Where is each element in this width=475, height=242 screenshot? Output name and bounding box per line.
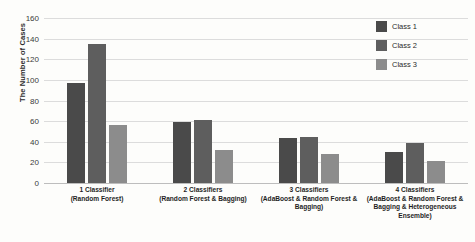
bar	[279, 138, 297, 183]
bar-group	[150, 18, 256, 183]
bar	[109, 125, 127, 183]
bar-group	[44, 18, 150, 183]
bar	[406, 143, 424, 183]
y-tick-label: 140	[26, 34, 39, 43]
legend-item: Class 2	[376, 40, 417, 51]
bar	[321, 154, 339, 183]
y-tick-label: 80	[30, 96, 39, 105]
bar	[88, 44, 106, 183]
category-name: 1 Classifier	[79, 186, 114, 193]
legend-swatch	[376, 59, 387, 70]
bar	[215, 150, 233, 183]
x-axis-category-label: 1 Classifier(Random Forest)	[44, 186, 150, 242]
y-tick-label: 120	[26, 55, 39, 64]
category-sublabel: (AdaBoost & Random Forest & Bagging)	[257, 195, 361, 212]
legend-label: Class 2	[392, 41, 417, 50]
bar-chart: The Number of Cases 16014012010080604020…	[0, 0, 475, 242]
bar	[427, 161, 445, 183]
bar	[385, 152, 403, 183]
category-name: 3 Classifiers	[290, 186, 329, 193]
legend-swatch	[376, 40, 387, 51]
legend-item: Class 3	[376, 59, 417, 70]
category-sublabel: (AdaBoost & Random Forest & Bagging & He…	[363, 195, 467, 221]
bar-group	[256, 18, 362, 183]
bar	[67, 83, 85, 183]
legend: Class 1Class 2Class 3	[376, 21, 417, 70]
bars	[256, 18, 362, 183]
y-tick-label: 60	[30, 117, 39, 126]
category-sublabel: (Random Forest & Bagging)	[151, 195, 255, 204]
bars	[150, 18, 256, 183]
legend-label: Class 3	[392, 60, 417, 69]
x-axis-category-label: 4 Classifiers(AdaBoost & Random Forest &…	[362, 186, 468, 242]
y-tick-label: 100	[26, 75, 39, 84]
y-tick-label: 160	[26, 14, 39, 23]
bar	[194, 120, 212, 183]
x-axis-category-label: 3 Classifiers(AdaBoost & Random Forest &…	[256, 186, 362, 242]
y-tick-label: 20	[30, 158, 39, 167]
y-tick-label: 0	[35, 179, 39, 188]
x-axis-line: 0	[44, 183, 468, 184]
bar	[173, 122, 191, 183]
category-name: 4 Classifiers	[396, 186, 435, 193]
x-axis-category-labels: 1 Classifier(Random Forest)2 Classifiers…	[44, 186, 468, 242]
legend-label: Class 1	[392, 22, 417, 31]
legend-item: Class 1	[376, 21, 417, 32]
y-tick-label: 40	[30, 137, 39, 146]
category-name: 2 Classifiers	[184, 186, 223, 193]
x-axis-category-label: 2 Classifiers(Random Forest & Bagging)	[150, 186, 256, 242]
legend-swatch	[376, 21, 387, 32]
category-sublabel: (Random Forest)	[45, 195, 149, 204]
bar	[300, 137, 318, 183]
bars	[44, 18, 150, 183]
